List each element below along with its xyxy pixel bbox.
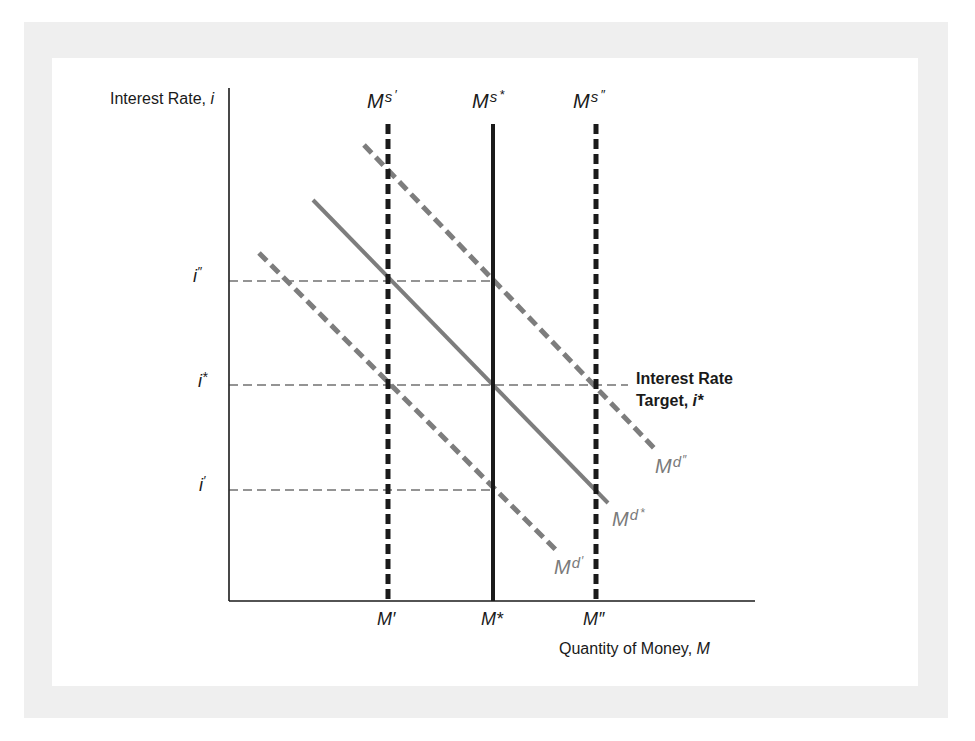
target-annotation-line2: Target, i* <box>636 392 704 409</box>
y-tick-i-prime: i′ <box>199 473 206 495</box>
label-ms-prime: Ms′ <box>367 87 397 112</box>
x-axis-title: Quantity of Money, M <box>559 640 711 657</box>
label-ms-double-prime: Ms″ <box>573 87 605 112</box>
x-tick-m-prime: M′ <box>377 609 396 629</box>
target-annotation-line1: Interest Rate <box>636 370 733 387</box>
label-md-prime: Md′ <box>554 554 584 578</box>
label-md-double-prime: Md″ <box>655 453 687 477</box>
x-tick-m-double-prime: M″ <box>583 609 605 629</box>
money-market-diagram: Interest Rate, i Ms′ Ms* Ms″ i″ i* i′ In… <box>0 0 975 741</box>
y-tick-i-double-prime: i″ <box>193 264 202 286</box>
label-md-star: Md* <box>612 506 645 530</box>
label-ms-star: Ms* <box>472 87 505 112</box>
y-tick-i-star: i* <box>198 369 208 391</box>
x-tick-m-star: M* <box>481 609 504 629</box>
y-axis-title: Interest Rate, i <box>110 90 215 107</box>
